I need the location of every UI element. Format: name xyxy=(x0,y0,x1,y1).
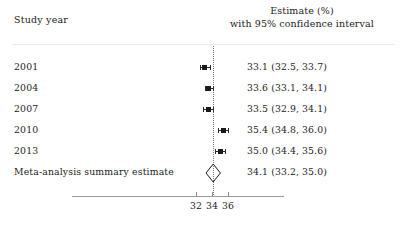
estimate-marker xyxy=(202,65,207,70)
row-study-label: 2007 xyxy=(14,103,38,114)
row-study-label: Meta-analysis summary estimate xyxy=(14,166,174,177)
ci-cap-lower xyxy=(200,65,201,70)
forest-row: 200433.6 (33.1, 34.1) xyxy=(0,79,406,99)
study-year-column-header: Study year xyxy=(14,14,68,25)
estimate-marker xyxy=(206,107,211,112)
header-divider xyxy=(12,44,394,45)
summary-diamond xyxy=(204,163,222,183)
estimate-marker xyxy=(218,149,223,154)
ci-cap-upper xyxy=(210,65,211,70)
ci-cap-upper xyxy=(213,107,214,112)
row-estimate-value: 34.1 (33.2, 35.0) xyxy=(247,166,327,177)
row-estimate-value: 35.4 (34.8, 36.0) xyxy=(247,124,327,135)
estimate-column-header-line1: Estimate (%) xyxy=(212,4,392,17)
estimate-marker xyxy=(221,128,226,133)
estimate-column-header-line2: with 95% confidence interval xyxy=(212,17,392,30)
x-axis-tick-label: 32 xyxy=(190,200,202,211)
row-study-label: 2004 xyxy=(14,82,38,93)
ci-cap-upper xyxy=(228,128,229,133)
forest-row: 200133.1 (32.5, 33.7) xyxy=(0,58,406,78)
x-axis-tick-label: 34 xyxy=(206,200,218,211)
x-axis-tick-label: 36 xyxy=(222,200,234,211)
x-axis-tick xyxy=(212,192,213,197)
estimate-column-header: Estimate (%) with 95% confidence interva… xyxy=(212,4,392,30)
row-estimate-value: 35.0 (34.4, 35.6) xyxy=(247,145,327,156)
estimate-marker xyxy=(206,86,211,91)
row-estimate-value: 33.6 (33.1, 34.1) xyxy=(247,82,327,93)
x-axis-line xyxy=(72,196,284,197)
row-study-label: 2013 xyxy=(14,145,38,156)
row-study-label: 2001 xyxy=(14,61,38,72)
forest-row: Meta-analysis summary estimate34.1 (33.2… xyxy=(0,163,406,183)
row-estimate-value: 33.1 (32.5, 33.7) xyxy=(247,61,327,72)
row-estimate-value: 33.5 (32.9, 34.1) xyxy=(247,103,327,114)
ci-cap-lower xyxy=(218,128,219,133)
ci-cap-upper xyxy=(225,149,226,154)
forest-row: 201335.0 (34.4, 35.6) xyxy=(0,142,406,162)
row-study-label: 2010 xyxy=(14,124,38,135)
ci-cap-upper xyxy=(213,86,214,91)
forest-row: 200733.5 (32.9, 34.1) xyxy=(0,100,406,120)
forest-row: 201035.4 (34.8, 36.0) xyxy=(0,121,406,141)
ci-cap-lower xyxy=(203,107,204,112)
ci-cap-lower xyxy=(215,149,216,154)
forest-plot: Study year Estimate (%) with 95% confide… xyxy=(0,0,406,229)
x-axis-tick xyxy=(196,192,197,197)
x-axis-tick xyxy=(228,192,229,197)
